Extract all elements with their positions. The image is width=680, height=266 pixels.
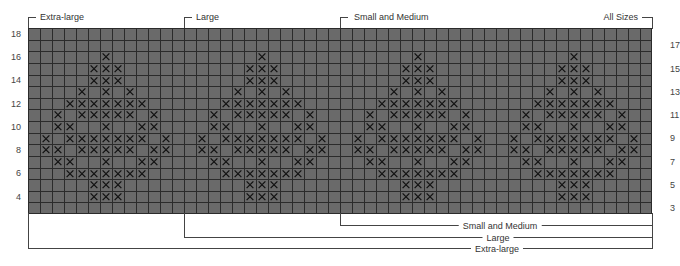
top-label-small-medium: Small and Medium	[354, 11, 429, 23]
stitch-x-icon	[412, 86, 424, 98]
stitch-x-icon	[64, 98, 76, 110]
grid-row-line	[29, 86, 651, 87]
stitch-x-icon	[124, 168, 136, 180]
stitch-x-icon	[220, 121, 232, 133]
stitch-x-icon	[556, 191, 568, 203]
stitch-x-icon	[124, 133, 136, 145]
stitch-x-icon	[424, 75, 436, 87]
row-number-right: 11	[670, 110, 679, 120]
stitch-x-icon	[436, 109, 448, 121]
stitch-x-icon	[256, 109, 268, 121]
stitch-x-icon	[436, 144, 448, 156]
stitch-x-icon	[124, 109, 136, 121]
stitch-x-icon	[592, 133, 604, 145]
stitch-x-icon	[256, 121, 268, 133]
stitch-x-icon	[568, 156, 580, 168]
stitch-x-icon	[580, 63, 592, 75]
stitch-x-icon	[508, 144, 520, 156]
grid-row-line	[29, 121, 651, 122]
stitch-x-icon	[64, 156, 76, 168]
stitch-x-icon	[136, 156, 148, 168]
stitch-x-icon	[532, 98, 544, 110]
stitch-x-icon	[76, 98, 88, 110]
stitch-x-icon	[448, 98, 460, 110]
stitch-x-icon	[412, 179, 424, 191]
row-number-left: 10	[11, 122, 21, 132]
stitch-x-icon	[568, 63, 580, 75]
stitch-x-icon	[256, 98, 268, 110]
stitch-x-icon	[124, 144, 136, 156]
stitch-x-icon	[580, 98, 592, 110]
stitch-x-icon	[616, 121, 628, 133]
stitch-x-icon	[196, 144, 208, 156]
stitch-x-icon	[532, 156, 544, 168]
stitch-x-icon	[232, 98, 244, 110]
grid-row-line	[29, 40, 651, 41]
stitch-x-icon	[88, 191, 100, 203]
stitch-x-icon	[136, 133, 148, 145]
stitch-x-icon	[568, 133, 580, 145]
grid-row-line	[29, 202, 651, 203]
stitch-x-icon	[412, 63, 424, 75]
stitch-x-icon	[100, 144, 112, 156]
stitch-x-icon	[88, 75, 100, 87]
stitch-x-icon	[412, 109, 424, 121]
stitch-x-icon	[436, 133, 448, 145]
stitch-x-icon	[292, 168, 304, 180]
stitch-x-icon	[604, 156, 616, 168]
stitch-x-icon	[568, 168, 580, 180]
stitch-x-icon	[412, 191, 424, 203]
row-number-right: 13	[670, 87, 680, 97]
stitch-x-icon	[460, 144, 472, 156]
stitch-x-icon	[268, 109, 280, 121]
stitch-x-icon	[160, 144, 172, 156]
stitch-x-icon	[460, 121, 472, 133]
stitch-x-icon	[544, 109, 556, 121]
grid-row-line	[29, 51, 651, 52]
stitch-x-icon	[412, 75, 424, 87]
stitch-x-icon	[112, 75, 124, 87]
stitch-x-icon	[520, 144, 532, 156]
stitch-x-icon	[268, 179, 280, 191]
stitch-x-icon	[148, 109, 160, 121]
top-label-extra-large: Extra-large	[40, 11, 84, 23]
stitch-x-icon	[532, 168, 544, 180]
stitch-x-icon	[508, 133, 520, 145]
stitch-x-icon	[244, 179, 256, 191]
stitch-x-icon	[580, 109, 592, 121]
stitch-x-icon	[268, 63, 280, 75]
stitch-x-icon	[436, 168, 448, 180]
stitch-x-icon	[280, 86, 292, 98]
stitch-x-icon	[268, 133, 280, 145]
top-label-all-sizes: All Sizes	[603, 11, 638, 23]
stitch-x-icon	[448, 121, 460, 133]
stitch-x-icon	[88, 179, 100, 191]
bottom-label-extra-large: Extra-large	[471, 244, 523, 254]
stitch-x-icon	[568, 121, 580, 133]
stitch-x-icon	[268, 75, 280, 87]
stitch-x-icon	[88, 168, 100, 180]
stitch-x-icon	[100, 109, 112, 121]
stitch-x-icon	[136, 98, 148, 110]
stitch-x-icon	[256, 144, 268, 156]
stitch-x-icon	[460, 156, 472, 168]
stitch-x-icon	[244, 133, 256, 145]
stitch-x-icon	[76, 168, 88, 180]
stitch-x-icon	[544, 133, 556, 145]
stitch-x-icon	[460, 109, 472, 121]
stitch-x-icon	[592, 168, 604, 180]
stitch-x-icon	[100, 191, 112, 203]
stitch-x-icon	[112, 109, 124, 121]
stitch-x-icon	[124, 98, 136, 110]
stitch-x-icon	[136, 168, 148, 180]
stitch-x-icon	[580, 191, 592, 203]
stitch-x-icon	[580, 75, 592, 87]
stitch-x-icon	[100, 156, 112, 168]
stitch-x-icon	[604, 98, 616, 110]
stitch-x-icon	[40, 144, 52, 156]
stitch-x-icon	[412, 168, 424, 180]
stitch-x-icon	[112, 144, 124, 156]
stitch-x-icon	[568, 86, 580, 98]
stitch-x-icon	[88, 63, 100, 75]
stitch-x-icon	[544, 168, 556, 180]
